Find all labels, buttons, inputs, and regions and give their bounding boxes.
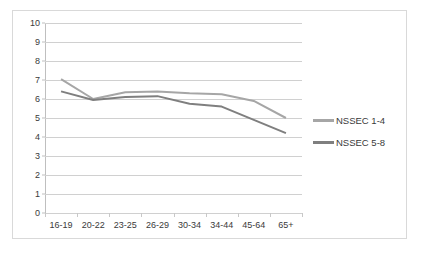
x-axis-tick-label: 16-19 — [50, 220, 73, 230]
x-axis-tick-mark — [77, 213, 78, 217]
legend-label: NSSEC 1-4 — [336, 115, 385, 126]
plot-area: 012345678910 — [45, 23, 302, 213]
y-axis-tick-label: 3 — [35, 151, 40, 161]
x-axis-tick-mark — [174, 213, 175, 217]
x-axis-tick-label: 34-44 — [210, 220, 233, 230]
legend-swatch-icon — [313, 141, 334, 144]
x-axis-tick-mark — [270, 213, 271, 217]
y-axis-tick-label: 0 — [35, 208, 40, 218]
x-axis-tick-mark — [302, 213, 303, 217]
x-axis-tick-label: 65+ — [278, 220, 293, 230]
y-axis-tick-label: 8 — [35, 56, 40, 66]
x-axis-tick-label: 45-64 — [242, 220, 265, 230]
chart-frame: 012345678910 16-1920-2223-2526-2930-3434… — [12, 10, 407, 239]
x-axis-tick-label: 20-22 — [82, 220, 105, 230]
x-axis-tick-label: 26-29 — [146, 220, 169, 230]
series-lines — [45, 23, 302, 213]
x-axis: 16-1920-2223-2526-2930-3434-4445-6465+ — [45, 213, 302, 239]
y-axis-tick-label: 7 — [35, 75, 40, 85]
line-chart: 012345678910 16-1920-2223-2526-2930-3434… — [13, 11, 408, 240]
y-axis-tick-label: 2 — [35, 170, 40, 180]
y-axis-tick-label: 6 — [35, 94, 40, 104]
legend-label: NSSEC 5-8 — [336, 137, 385, 148]
x-axis-tick-mark — [109, 213, 110, 217]
y-axis-tick-label: 4 — [35, 132, 40, 142]
x-axis-tick-mark — [206, 213, 207, 217]
x-axis-tick-mark — [141, 213, 142, 217]
x-axis-tick-mark — [238, 213, 239, 217]
chart-legend: NSSEC 1-4NSSEC 5-8 — [313, 109, 405, 153]
y-axis-tick-label: 1 — [35, 189, 40, 199]
x-axis-tick-label: 23-25 — [114, 220, 137, 230]
legend-swatch-icon — [313, 119, 334, 122]
legend-item[interactable]: NSSEC 5-8 — [313, 131, 405, 153]
series-line-nssec-1-4 — [61, 79, 286, 118]
y-axis-tick-label: 10 — [30, 18, 40, 28]
x-axis-tick-mark — [45, 213, 46, 217]
y-axis-tick-label: 9 — [35, 37, 40, 47]
y-axis-tick-label: 5 — [35, 113, 40, 123]
x-axis-tick-label: 30-34 — [178, 220, 201, 230]
legend-item[interactable]: NSSEC 1-4 — [313, 109, 405, 131]
